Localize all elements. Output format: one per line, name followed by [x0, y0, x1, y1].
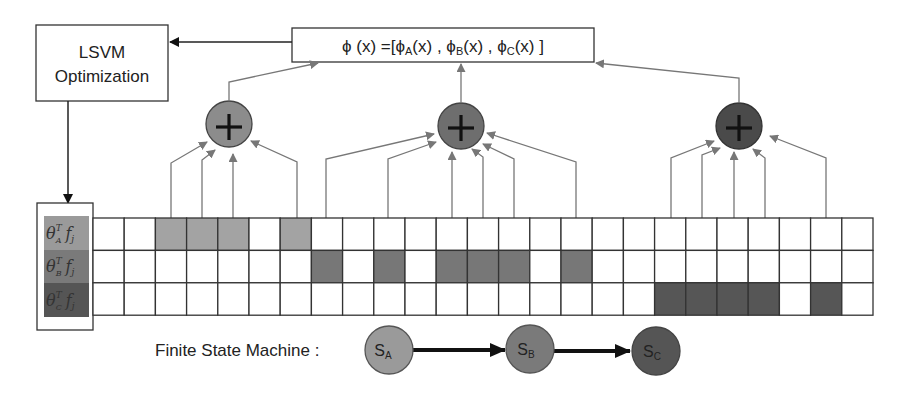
grid-cell-b-17 — [623, 250, 654, 282]
grid-cell-b-4 — [218, 250, 249, 282]
grid-cell-a-5 — [249, 218, 280, 250]
grid-cell-c-8 — [343, 283, 374, 315]
grid-cell-c-20 — [717, 283, 748, 315]
grid-cell-c-4 — [218, 283, 249, 315]
grid-cell-b-1 — [124, 250, 155, 282]
grid-cell-b-20 — [717, 250, 748, 282]
grid-cell-c-5 — [249, 283, 280, 315]
grid-cell-c-21 — [748, 283, 779, 315]
grid-cell-a-0 — [93, 218, 124, 250]
grid-cell-c-3 — [187, 283, 218, 315]
sum-c-inputs — [671, 136, 826, 218]
grid-cell-c-15 — [561, 283, 592, 315]
sum-node-b — [438, 103, 484, 149]
grid-cell-c-13 — [499, 283, 530, 315]
grid-cell-c-0 — [93, 283, 124, 315]
grid-cell-a-8 — [343, 218, 374, 250]
lsvm-label-line1: LSVM — [79, 43, 125, 62]
grid-cell-c-23 — [811, 283, 842, 315]
score-label-panel: θTAfj θTBfj θTCfj — [37, 203, 93, 330]
arrow-sum-c-to-vector — [596, 63, 739, 102]
sum-node-c — [716, 103, 762, 149]
grid-cell-c-10 — [405, 283, 436, 315]
grid-cell-b-21 — [748, 250, 779, 282]
grid-cell-b-9 — [374, 250, 405, 282]
grid-cell-a-22 — [779, 218, 810, 250]
grid-cell-c-9 — [374, 283, 405, 315]
feature-vector-box: ϕ (x) =[ϕA(x) , ϕB(x) , ϕC(x) ] — [292, 28, 594, 62]
grid-cell-b-2 — [155, 250, 186, 282]
grid-cell-b-16 — [592, 250, 623, 282]
lsvm-label-line2: Optimization — [55, 67, 149, 86]
grid-cell-c-6 — [280, 283, 311, 315]
fsm-state-b: SB — [506, 325, 554, 373]
grid-cell-a-3 — [187, 218, 218, 250]
grid-cell-a-1 — [124, 218, 155, 250]
grid-cell-a-10 — [405, 218, 436, 250]
grid-cell-b-8 — [343, 250, 374, 282]
fsm-state-a: SA — [365, 326, 413, 374]
grid-cell-a-19 — [686, 218, 717, 250]
grid-cell-b-10 — [405, 250, 436, 282]
grid-cell-b-18 — [655, 250, 686, 282]
lsvm-optimization-box: LSVM Optimization — [36, 25, 168, 101]
grid-cell-c-14 — [530, 283, 561, 315]
grid-cell-a-9 — [374, 218, 405, 250]
grid-cell-a-13 — [499, 218, 530, 250]
grid-cell-a-18 — [655, 218, 686, 250]
grid-cell-a-11 — [436, 218, 467, 250]
grid-cell-b-11 — [436, 250, 467, 282]
grid-cell-a-23 — [811, 218, 842, 250]
grid-cell-c-1 — [124, 283, 155, 315]
diagram-canvas: LSVM Optimization ϕ (x) =[ϕA(x) , ϕB(x) … — [0, 0, 913, 398]
grid-cell-a-4 — [218, 218, 249, 250]
grid-cell-b-24 — [842, 250, 873, 282]
grid-cell-a-12 — [467, 218, 498, 250]
grid-cell-b-3 — [187, 250, 218, 282]
grid-cell-a-16 — [592, 218, 623, 250]
grid-cell-c-24 — [842, 283, 873, 315]
fsm-label: Finite State Machine : — [155, 341, 319, 360]
finite-state-machine: Finite State Machine : SA SB SC — [155, 325, 680, 375]
grid-cell-a-7 — [311, 218, 342, 250]
grid-cell-b-7 — [311, 250, 342, 282]
grid-cell-c-18 — [655, 283, 686, 315]
grid-cell-a-20 — [717, 218, 748, 250]
grid-cell-b-12 — [467, 250, 498, 282]
sum-a-inputs — [171, 141, 297, 218]
grid-cell-c-19 — [686, 283, 717, 315]
grid-cell-c-2 — [155, 283, 186, 315]
grid-cell-c-11 — [436, 283, 467, 315]
sum-node-a — [206, 101, 252, 147]
grid-cell-b-23 — [811, 250, 842, 282]
grid-cell-b-14 — [530, 250, 561, 282]
grid-cell-b-15 — [561, 250, 592, 282]
score-grid — [93, 218, 873, 315]
grid-cell-a-2 — [155, 218, 186, 250]
grid-cell-b-19 — [686, 250, 717, 282]
grid-cell-a-24 — [842, 218, 873, 250]
grid-cell-b-6 — [280, 250, 311, 282]
grid-cell-c-17 — [623, 283, 654, 315]
fsm-state-c: SC — [632, 327, 680, 375]
grid-cell-a-17 — [623, 218, 654, 250]
grid-cell-c-12 — [467, 283, 498, 315]
grid-cell-a-14 — [530, 218, 561, 250]
grid-cell-c-22 — [779, 283, 810, 315]
grid-cell-a-15 — [561, 218, 592, 250]
grid-cell-b-22 — [779, 250, 810, 282]
grid-cell-b-5 — [249, 250, 280, 282]
grid-cell-c-7 — [311, 283, 342, 315]
grid-cell-c-16 — [592, 283, 623, 315]
grid-cell-b-0 — [93, 250, 124, 282]
grid-cell-b-13 — [499, 250, 530, 282]
grid-cell-a-21 — [748, 218, 779, 250]
arrow-sum-a-to-vector — [229, 63, 318, 100]
grid-cell-a-6 — [280, 218, 311, 250]
